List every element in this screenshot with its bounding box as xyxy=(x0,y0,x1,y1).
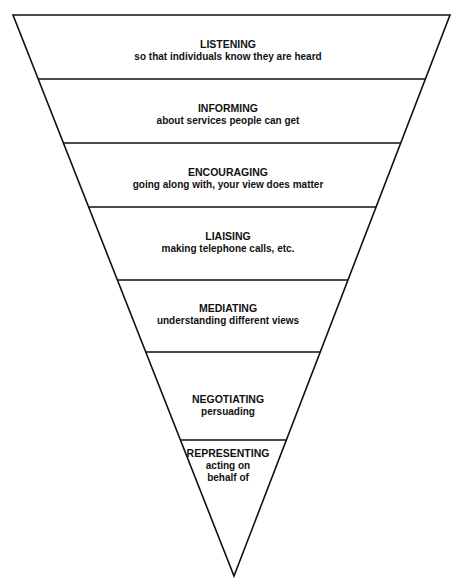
layer-listening: LISTENING so that individuals know they … xyxy=(0,38,456,63)
layer-subtitle: behalf of xyxy=(0,472,456,484)
layer-title: LIAISING xyxy=(0,230,456,243)
layer-representing: REPRESENTING acting on behalf of xyxy=(0,447,456,484)
layer-negotiating: NEGOTIATING persuading xyxy=(0,393,456,418)
layer-title: ENCOURAGING xyxy=(0,166,456,179)
layer-liaising: LIAISING making telephone calls, etc. xyxy=(0,230,456,255)
layer-title: LISTENING xyxy=(0,38,456,51)
layer-subtitle: going along with, your view does matter xyxy=(0,179,456,191)
layer-title: REPRESENTING xyxy=(0,447,456,460)
layer-encouraging: ENCOURAGING going along with, your view … xyxy=(0,166,456,191)
layer-subtitle: making telephone calls, etc. xyxy=(0,243,456,255)
layer-mediating: MEDIATING understanding different views xyxy=(0,302,456,327)
layer-subtitle: so that individuals know they are heard xyxy=(0,51,456,63)
layer-title: INFORMING xyxy=(0,102,456,115)
layer-subtitle: persuading xyxy=(0,406,456,418)
inverted-pyramid-outline xyxy=(0,0,456,588)
layer-subtitle: understanding different views xyxy=(0,315,456,327)
layer-subtitle: about services people can get xyxy=(0,115,456,127)
layer-informing: INFORMING about services people can get xyxy=(0,102,456,127)
layer-title: NEGOTIATING xyxy=(0,393,456,406)
layer-title: MEDIATING xyxy=(0,302,456,315)
layer-subtitle: acting on xyxy=(0,460,456,472)
pyramid-triangle xyxy=(13,15,450,576)
